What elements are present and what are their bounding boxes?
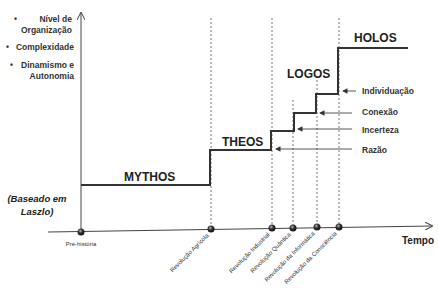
evolution-step-line	[81, 48, 408, 185]
milestone-guides	[211, 18, 339, 228]
bullet-icon: •	[14, 14, 17, 24]
milestone-dot-quantica	[290, 225, 297, 232]
milestone-dot-consciencia	[336, 224, 343, 231]
bullet-icon: •	[6, 42, 9, 52]
y-label-autonomia: Autonomia	[30, 71, 75, 81]
bullet-icon: •	[10, 60, 13, 70]
source-note-line2: Laszlo)	[21, 206, 54, 217]
stage-razao-label: Razão	[362, 145, 387, 155]
y-label-organizacao: Organização	[21, 25, 72, 35]
era-holos-label: HOLOS	[354, 31, 397, 45]
y-label-dinamismo: Dinamismo e	[21, 60, 74, 70]
era-theos-label: THEOS	[222, 135, 263, 149]
milestone-dot-agricola	[208, 226, 215, 233]
era-mythos-label: MYTHOS	[124, 170, 175, 184]
y-label-nivel: Nível de	[39, 14, 72, 24]
era-logos-label: LOGOS	[287, 67, 330, 81]
milestone-dot-informatica	[314, 224, 321, 231]
milestone-label-prehistoria: Pré-história	[66, 241, 97, 247]
evolution-diagram: MYTHOS THEOS LOGOS HOLOS Individuação Co…	[0, 0, 438, 296]
milestone-label-quantica: Revolução Quântica	[249, 231, 292, 274]
milestone-dot-prehistoria	[78, 229, 85, 236]
y-axis-legend: • Nível de Organização • Complexidade • …	[6, 14, 74, 81]
stage-incerteza-label: Incerteza	[362, 125, 399, 135]
milestone-dot-industrial	[269, 225, 276, 232]
stage-conexao-label: Conexão	[362, 107, 398, 117]
milestone-dots	[78, 224, 343, 236]
x-axis-label: Tempo	[402, 235, 434, 246]
y-label-complexidade: Complexidade	[16, 42, 74, 52]
milestone-label-industrial: Revolução Industrial	[228, 231, 271, 274]
stage-individuacao-label: Individuação	[362, 86, 414, 96]
x-axis	[48, 226, 432, 232]
source-note-line1: (Baseado em	[7, 193, 67, 204]
milestone-label-agricola: Revolução Agrícola	[169, 232, 210, 273]
